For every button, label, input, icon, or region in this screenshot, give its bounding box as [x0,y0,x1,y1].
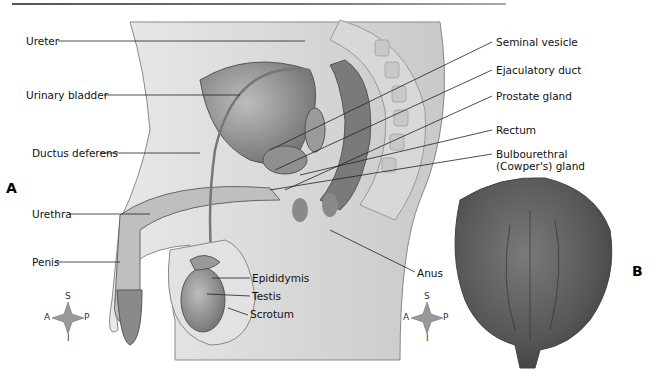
compass-posterior: P [443,312,448,322]
compass-superior: S [65,291,71,301]
label-bulbourethral: Bulbourethral [496,148,568,160]
label-ejaculatory-duct: Ejaculatory duct [496,64,581,76]
label-urinary-bladder: Urinary bladder [26,89,108,101]
compass-posterior: P [84,312,89,322]
label-anus: Anus [417,267,443,279]
label-scrotum: Scrotum [250,308,294,320]
panel-label-a: A [6,180,17,196]
anatomy-illustration [0,0,658,379]
label-ductus-deferens: Ductus deferens [32,147,118,159]
compass-superior: S [424,291,430,301]
label-testis: Testis [252,290,281,302]
label-seminal-vesicle: Seminal vesicle [496,36,578,48]
compass-inferior: I [426,333,429,343]
label-cowpers-gland: (Cowper's) gland [496,160,585,172]
orientation-compass-right: S A P I [405,293,449,343]
compass-anterior: A [403,312,409,322]
label-penis: Penis [32,256,59,268]
compass-anterior: A [44,312,50,322]
orientation-compass-left: S A P I [46,293,90,343]
compass-inferior: I [67,333,70,343]
label-ureter: Ureter [26,35,59,47]
label-urethra: Urethra [32,208,72,220]
label-epididymis: Epididymis [252,272,309,284]
label-rectum: Rectum [496,124,536,136]
panel-label-b: B [632,263,643,279]
label-prostate-gland: Prostate gland [496,90,572,102]
